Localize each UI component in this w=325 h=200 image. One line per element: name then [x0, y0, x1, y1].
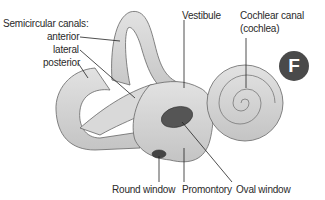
label-anterior: anterior: [47, 31, 79, 42]
label-vestibule: Vestibule: [182, 10, 221, 21]
label-oval-window: Oval window: [236, 184, 291, 195]
label-lateral: lateral: [53, 44, 79, 55]
label-cochlea: (cochlea): [240, 23, 279, 34]
inner-ear-diagram: Semicircular canals: anterior lateral po…: [0, 0, 325, 200]
label-cochlear-canal: Cochlear canal: [240, 10, 304, 21]
figure-badge: F: [279, 51, 309, 81]
cochlea: [207, 65, 283, 141]
label-round-window: Round window: [112, 184, 175, 195]
label-semicircular-canals: Semicircular canals:: [3, 18, 88, 29]
label-posterior: posterior: [43, 57, 80, 68]
label-promontory: Promontory: [182, 184, 232, 195]
